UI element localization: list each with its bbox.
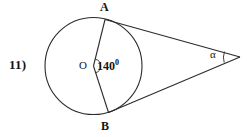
problem-number-label: 11): [9, 58, 26, 71]
center-label-o: O: [79, 60, 87, 71]
exterior-angle-label-alpha: α: [210, 49, 216, 60]
geometry-figure: 11) A B O 1400 α: [0, 0, 247, 137]
circle-tangent-diagram: [0, 0, 247, 137]
point-label-b: B: [101, 120, 109, 132]
point-label-a: A: [100, 1, 109, 13]
central-angle-value: 140: [97, 59, 115, 73]
degree-symbol: 0: [115, 58, 119, 67]
central-angle-label: 1400: [97, 59, 119, 72]
exterior-angle-arc: [223, 52, 224, 63]
